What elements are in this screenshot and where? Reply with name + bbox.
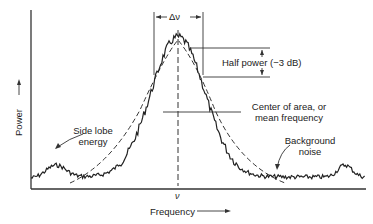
side-lobe-label-line1: Side lobe <box>68 125 118 136</box>
arrow-left-icon <box>156 15 161 19</box>
background-label-line2: noise <box>280 146 340 157</box>
y-axis-label: Power <box>13 103 24 143</box>
half-power-label: Half power (−3 dB) <box>222 57 301 68</box>
background-label-line1: Background <box>280 135 340 146</box>
x-axis-label: Frequency <box>150 206 195 217</box>
background-arrow-icon <box>275 164 280 170</box>
center-label-line2: mean frequency <box>244 112 334 123</box>
y-axis-arrow-icon <box>17 79 21 85</box>
center-frequency-symbol: ν <box>175 191 180 202</box>
arrow-right-icon <box>196 15 201 19</box>
side-lobe-label-line2: energy <box>68 136 118 147</box>
side-lobe-arrow-icon <box>55 143 61 149</box>
x-axis-arrow-icon <box>225 209 231 213</box>
bandwidth-label: Δν <box>169 11 180 22</box>
arrow-down-icon <box>260 70 264 75</box>
arrow-up-icon <box>260 50 264 55</box>
center-label-line1: Center of area, or <box>244 101 334 112</box>
